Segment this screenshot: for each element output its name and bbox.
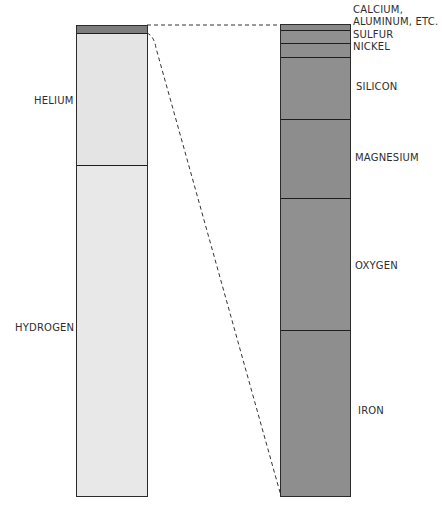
expansion-connectors (0, 0, 442, 514)
silicon-label: SILICON (356, 82, 398, 92)
nickel-label: NICKEL (353, 42, 390, 52)
sulfur-label: SULFUR (353, 30, 393, 40)
hydrogen-label: HYDROGEN (15, 323, 74, 333)
left-composition-bar (76, 25, 148, 497)
calcium-label: CALCIUM, (353, 5, 403, 15)
right-heavy-elements-bar (280, 24, 351, 497)
oxygen-label: OXYGEN (355, 261, 398, 271)
silicon-segment (281, 57, 350, 119)
magnesium-segment (281, 119, 350, 198)
helium-segment (77, 34, 147, 166)
sulfur-segment (281, 30, 350, 43)
helium-label: HELIUM (34, 96, 74, 106)
oxygen-segment (281, 198, 350, 330)
hydrogen-segment (77, 165, 147, 496)
iron-segment (281, 330, 350, 496)
magnesium-label: MAGNESIUM (355, 153, 419, 163)
iron-label: IRON (358, 406, 384, 416)
heavy-elements-cap (77, 26, 147, 34)
aluminum-label: ALUMINUM, ETC. (353, 17, 438, 27)
bottom-connector-line (147, 33, 281, 496)
nickel-segment (281, 43, 350, 57)
